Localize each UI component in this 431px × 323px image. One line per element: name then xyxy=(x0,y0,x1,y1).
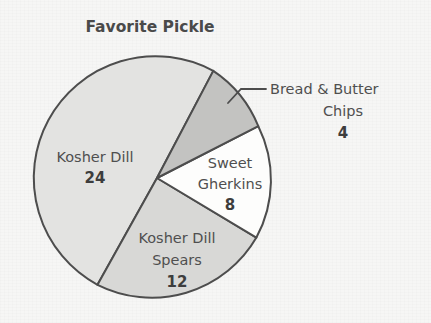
pie-slice-label-sweet-gherkins-line1: Sweet xyxy=(208,155,253,171)
pie-slice-label-bread-butter-chips-line2: Chips xyxy=(323,103,363,119)
pie-slice-label-kosher-dill-spears-line2: Spears xyxy=(152,252,202,268)
pie-slice-label-bread-butter-chips-line1: Bread & Butter xyxy=(270,81,379,97)
pie-slice-label-sweet-gherkins-line2: Gherkins xyxy=(198,176,262,192)
pie-chart-canvas: Favorite Pickle Kosher Dill 24 Kosher Di… xyxy=(0,0,431,323)
pie-slice-value-sweet-gherkins: 8 xyxy=(225,196,235,214)
chart-title: Favorite Pickle xyxy=(85,18,214,36)
pie-chart-figure: Favorite Pickle Kosher Dill 24 Kosher Di… xyxy=(0,0,431,323)
pie-slice-value-bread-butter-chips: 4 xyxy=(338,124,348,142)
pie-slice-label-kosher-dill-spears-line1: Kosher Dill xyxy=(138,230,215,246)
pie-slice-value-kosher-dill-spears: 12 xyxy=(167,273,188,291)
pie-slice-label-kosher-dill: Kosher Dill xyxy=(56,149,133,165)
pie-slice-value-kosher-dill: 24 xyxy=(85,169,106,187)
